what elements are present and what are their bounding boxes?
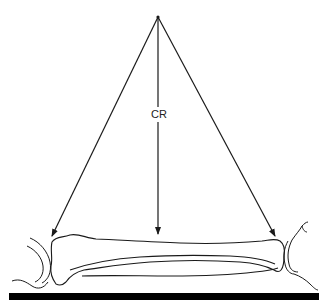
distal-joint <box>284 222 318 290</box>
right-ray-arrow <box>158 17 275 236</box>
central-ray-label: CR <box>151 108 167 120</box>
long-bone <box>51 235 285 285</box>
image-receptor-bar <box>9 293 319 300</box>
proximal-joint <box>12 238 51 288</box>
radiography-diagram: CR <box>0 0 329 305</box>
left-ray-arrow <box>52 17 158 236</box>
